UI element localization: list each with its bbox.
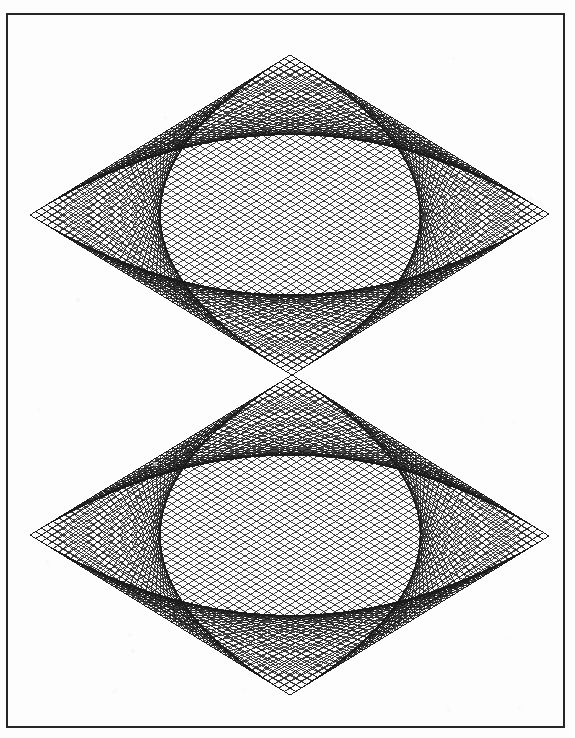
- upper-rhombus-envelope: [30, 55, 549, 375]
- lower-rhombus-envelope: [30, 375, 549, 695]
- figure-page: [0, 0, 575, 738]
- string-art-figure: [0, 0, 575, 738]
